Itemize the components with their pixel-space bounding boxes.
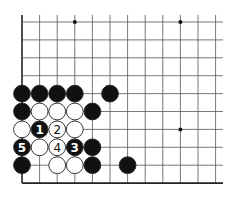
black-stone (119, 157, 136, 174)
stone-circle (31, 103, 48, 120)
stone-circle (66, 121, 83, 138)
white-stone (49, 103, 66, 120)
move-number: 1 (35, 123, 43, 137)
star-point-icon (178, 20, 182, 24)
stone-circle (84, 157, 101, 174)
black-stone: 5 (14, 139, 31, 156)
white-stone: 4 (49, 139, 66, 156)
stone-circle (14, 157, 31, 174)
black-stone (66, 85, 83, 102)
stone-circle (49, 103, 66, 120)
black-stone (84, 157, 101, 174)
black-stone (102, 85, 119, 102)
stone-circle (14, 103, 31, 120)
white-stone (31, 139, 48, 156)
stone-circle (102, 85, 119, 102)
white-stone: 2 (49, 121, 66, 138)
white-stone (66, 103, 83, 120)
stone-circle (66, 85, 83, 102)
white-stone (66, 157, 83, 174)
star-point-icon (73, 20, 77, 24)
move-number: 3 (71, 141, 79, 155)
move-number: 4 (53, 141, 61, 155)
black-stone (14, 157, 31, 174)
stone-circle (14, 85, 31, 102)
stone-circle (14, 121, 31, 138)
black-stone: 3 (66, 139, 83, 156)
move-number: 5 (18, 141, 26, 155)
white-stone (66, 121, 83, 138)
white-stone (31, 103, 48, 120)
stone-circle (49, 157, 66, 174)
black-stone (49, 85, 66, 102)
move-number: 2 (53, 123, 61, 137)
star-point-icon (178, 127, 182, 131)
go-board-diagram: 12543 (0, 0, 239, 197)
stone-circle (66, 157, 83, 174)
stone-circle (84, 139, 101, 156)
black-stone (31, 85, 48, 102)
stone-circle (49, 85, 66, 102)
stone-circle (119, 157, 136, 174)
black-stone (84, 139, 101, 156)
black-stone (14, 85, 31, 102)
stone-circle (31, 85, 48, 102)
stone-circle (84, 103, 101, 120)
white-stone (14, 121, 31, 138)
black-stone (14, 103, 31, 120)
stone-circle (66, 103, 83, 120)
black-stone: 1 (31, 121, 48, 138)
black-stone (84, 103, 101, 120)
stone-circle (31, 139, 48, 156)
white-stone (49, 157, 66, 174)
